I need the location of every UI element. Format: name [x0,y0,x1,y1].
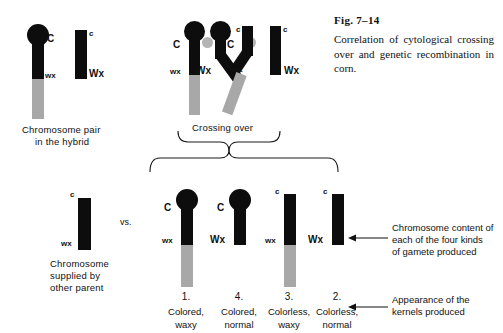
panel-hybrid-pair: C wx c Wx Chromosome pair in the hybrid [0,0,160,140]
other-parent-caption-line1: Chromosome [50,258,109,271]
arrow-to-gametes [348,231,390,245]
allele-label-C: C [164,203,171,213]
other-parent-caption-line3: other parent [50,282,104,295]
brace-group [140,128,360,174]
chromosome-black-segment [32,34,44,79]
brace-crossing-over [178,131,280,151]
allele-label-c: c [323,188,327,196]
allele-label-wx: wx [162,237,173,245]
gamete-content-note-line3: of gamete produced [392,246,477,259]
allele-label-c: c [236,26,240,34]
other-parent-caption-line2: supplied by [50,270,100,283]
hybrid-caption-line2: in the hybrid [35,136,89,149]
chromosome-black-segment [234,199,246,245]
allele-label-wx: wx [45,72,56,80]
allele-label-wx: wx [232,66,243,74]
allele-label-c: c [70,191,74,199]
chromosome-gray-segment [284,245,296,287]
chromosome-black-segment [332,194,344,245]
allele-label-wx: wx [265,237,276,245]
allele-label-Wx: Wx [89,69,104,79]
hybrid-caption-line1: Chromosome pair [22,124,101,137]
allele-label-c: c [89,30,93,38]
figure-caption-block: Fig. 7–14 Correlation of cytological cro… [334,14,494,76]
allele-label-Wx: Wx [308,235,323,245]
kernel-appearance-note-line1: Appearance of the [392,294,470,307]
gamete-content-note-line1: Chromosome content of [392,222,493,235]
gamete-phenotype-line1: Colored, [157,306,215,319]
gamete-phenotype-line2: normal [308,319,366,332]
allele-label-c: c [283,26,287,34]
allele-label-C: C [227,40,234,50]
arrow-to-kernels [348,300,390,314]
chromosome-black-segment [78,198,91,250]
allele-label-wx: wx [61,240,72,248]
allele-label-C: C [217,203,224,213]
centromere-dot-icon [202,37,213,48]
chromosome-black-segment [75,30,87,79]
allele-label-c: c [275,188,279,196]
gamete-number: 1. [159,291,213,302]
brace-gametes [150,150,338,172]
chromosome-gray-segment [181,245,193,287]
allele-label-Wx: Wx [210,235,225,245]
gamete-content-note-line2: each of the four kinds [392,234,483,247]
figure-number: Fig. 7–14 [334,14,494,26]
allele-label-Wx: Wx [284,66,299,76]
chromosome-gray-segment [32,79,44,119]
chromosome-gray-segment [189,75,200,115]
chromosome-black-segment [270,26,281,75]
allele-label-C: C [173,40,180,50]
figure-canvas: Fig. 7–14 Correlation of cytological cro… [0,0,503,333]
panel-other-parent: c wx Chromosome supplied by other parent… [50,185,170,295]
allele-label-Wx: Wx [196,66,211,76]
allele-label-C: C [47,34,54,44]
allele-label-wx: wx [170,68,181,76]
chromosome-black-segment [284,194,296,245]
gamete-1: C wx 1. Colored, waxy [155,185,215,325]
figure-caption-text: Correlation of cytological crossing over… [334,32,494,76]
vs-label: vs. [120,217,132,227]
gamete-phenotype-line2: waxy [157,319,215,332]
chromosome-black-segment [181,199,193,245]
kernel-appearance-note-line2: kernels produced [392,306,465,319]
chromosome-gray-segment [222,72,247,115]
